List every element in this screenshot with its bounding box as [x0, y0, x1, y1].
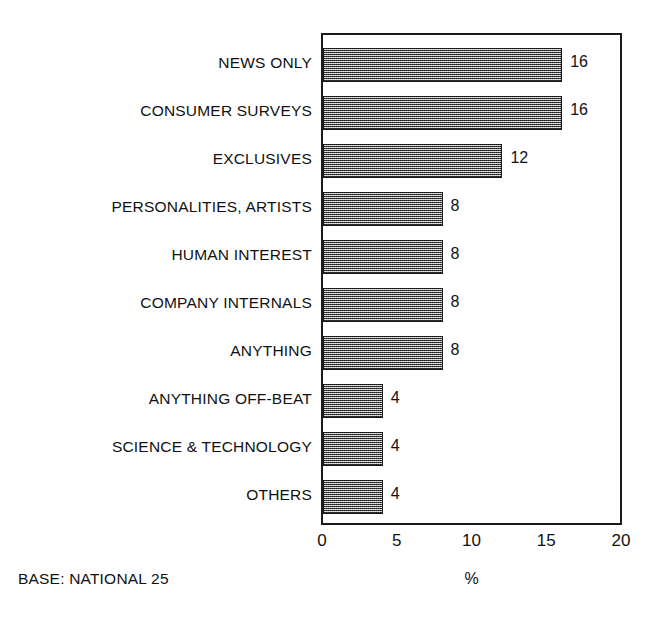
bar [323, 48, 562, 82]
bar [323, 480, 383, 514]
x-axis-tick-labels: 05101520 [321, 532, 622, 556]
category-label: PERSONALITIES, ARTISTS [0, 199, 312, 215]
bar [323, 432, 383, 466]
x-tick-label: 5 [392, 532, 401, 549]
bar [323, 384, 383, 418]
bar [323, 336, 443, 370]
category-label: ANYTHING [0, 343, 312, 359]
bar [323, 240, 443, 274]
x-tick-label: 20 [612, 532, 631, 549]
bar-value-label: 4 [391, 390, 400, 406]
category-label: COMPANY INTERNALS [0, 295, 312, 311]
x-tick-label: 10 [462, 532, 481, 549]
base-note: BASE: NATIONAL 25 [18, 570, 169, 588]
bar-value-label: 4 [391, 438, 400, 454]
bar-value-label: 16 [570, 54, 588, 70]
category-label: ANYTHING OFF-BEAT [0, 391, 312, 407]
x-axis-title: % [321, 570, 622, 588]
bar [323, 96, 562, 130]
category-label: EXCLUSIVES [0, 151, 312, 167]
x-tick-label: 0 [317, 532, 326, 549]
bar-value-label: 8 [451, 294, 460, 310]
category-label-column: NEWS ONLYCONSUMER SURVEYSEXCLUSIVESPERSO… [0, 33, 312, 525]
bar-value-label: 8 [451, 246, 460, 262]
bar [323, 144, 502, 178]
bar-value-label: 8 [451, 198, 460, 214]
bar-value-label: 8 [451, 342, 460, 358]
bar [323, 192, 443, 226]
bar [323, 288, 443, 322]
category-label: SCIENCE & TECHNOLOGY [0, 439, 312, 455]
category-label: HUMAN INTEREST [0, 247, 312, 263]
bar-value-label: 16 [570, 102, 588, 118]
category-label: CONSUMER SURVEYS [0, 103, 312, 119]
category-label: OTHERS [0, 487, 312, 503]
category-label: NEWS ONLY [0, 55, 312, 71]
chart-page: NEWS ONLYCONSUMER SURVEYSEXCLUSIVESPERSO… [0, 0, 665, 622]
bar-value-label: 12 [510, 150, 528, 166]
x-tick-label: 15 [537, 532, 556, 549]
bar-value-label: 4 [391, 486, 400, 502]
